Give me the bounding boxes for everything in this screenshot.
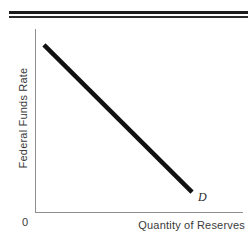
- demand-curve-label: D: [198, 190, 207, 205]
- plot-area: [0, 0, 250, 249]
- y-axis-label: Federal Funds Rate: [17, 33, 29, 203]
- demand-curve-line: [44, 45, 192, 192]
- figure-demand-for-reserves: Federal Funds Rate Quantity of Reserves …: [0, 0, 250, 249]
- origin-label: 0: [22, 216, 28, 228]
- x-axis-label: Quantity of Reserves: [103, 219, 245, 231]
